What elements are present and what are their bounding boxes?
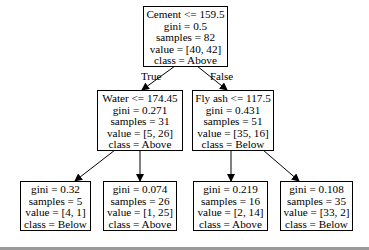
class-label: class = Above [144, 55, 227, 67]
edge-label-false: False [210, 70, 233, 82]
gini-value: gini = 0.074 [104, 184, 176, 196]
tree-node-water: Water <= 174.45 gini = 0.271 samples = 3… [97, 90, 183, 151]
split-condition: Fly ash <= 117.5 [193, 93, 273, 105]
gini-value: gini = 0.219 [194, 184, 267, 196]
tree-leaf-2: gini = 0.074 samples = 26 value = [1, 25… [103, 181, 177, 231]
edge-flyash-to-leaf4 [263, 150, 299, 181]
tree-leaf-3: gini = 0.219 samples = 16 value = [2, 14… [193, 181, 268, 231]
tree-node-root: Cement <= 159.5 gini = 0.5 samples = 82 … [143, 6, 228, 67]
class-label: class = Below [193, 139, 273, 151]
tree-node-fly-ash: Fly ash <= 117.5 gini = 0.431 samples = … [192, 90, 274, 151]
class-label: class = Below [281, 219, 352, 231]
gini-value: gini = 0.32 [21, 184, 90, 196]
class-label: class = Below [21, 219, 90, 231]
tree-leaf-4: gini = 0.108 samples = 35 value = [33, 2… [280, 181, 353, 231]
edge-water-to-leaf1 [75, 150, 115, 181]
edge-label-true: True [141, 70, 161, 82]
split-condition: Cement <= 159.5 [144, 9, 227, 21]
tree-leaf-1: gini = 0.32 samples = 5 value = [4, 1] c… [20, 181, 91, 231]
decision-tree-diagram: Cement <= 159.5 gini = 0.5 samples = 82 … [0, 0, 369, 250]
class-label: class = Above [104, 219, 176, 231]
class-label: class = Above [194, 219, 267, 231]
split-condition: Water <= 174.45 [98, 93, 182, 105]
class-label: class = Above [98, 139, 182, 151]
gini-value: gini = 0.108 [281, 184, 352, 196]
